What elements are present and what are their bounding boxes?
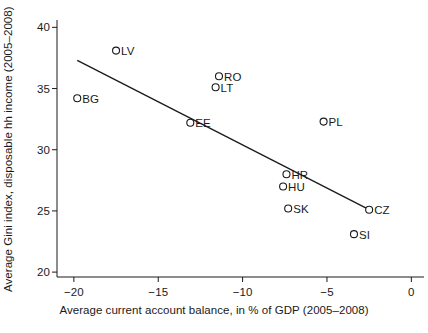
data-point-ee <box>187 119 194 126</box>
data-point-si <box>350 231 357 238</box>
x-tick-label: −20 <box>64 286 84 298</box>
data-point-lt <box>212 84 219 91</box>
point-label-ro: RO <box>224 71 241 83</box>
data-point-ro <box>215 73 222 80</box>
data-point-lv <box>113 47 120 54</box>
y-tick-label: 30 <box>20 144 50 156</box>
point-label-pl: PL <box>329 116 343 128</box>
point-label-hr: HR <box>291 169 308 181</box>
x-tick-label: −15 <box>148 286 168 298</box>
x-tick-marks <box>74 277 411 282</box>
point-label-ee: EE <box>195 117 211 129</box>
point-label-bg: BG <box>82 93 99 105</box>
point-label-si: SI <box>359 229 370 241</box>
data-point-sk <box>285 205 292 212</box>
x-axis-title: Average current account balance, in % of… <box>0 304 428 316</box>
x-tick-label: 0 <box>408 286 415 298</box>
data-point-hr <box>283 171 290 178</box>
point-label-cz: CZ <box>374 204 390 216</box>
data-point-cz <box>366 206 373 213</box>
y-tick-label: 40 <box>20 21 50 33</box>
point-label-hu: HU <box>288 181 305 193</box>
scatter-chart: 2025303540 −20−15−10−50 BGLVEELTROSKHUHR… <box>0 0 428 333</box>
data-point-pl <box>320 118 327 125</box>
y-tick-label: 35 <box>20 83 50 95</box>
data-point-bg <box>74 95 81 102</box>
y-axis-title: Average Gini index, disposable hh income… <box>2 12 18 292</box>
x-tick-label: −5 <box>320 286 333 298</box>
point-label-sk: SK <box>293 203 309 215</box>
y-tick-label: 20 <box>20 266 50 278</box>
data-point-hu <box>280 183 287 190</box>
x-tick-label: −10 <box>233 286 253 298</box>
point-label-lt: LT <box>221 82 234 94</box>
y-tick-marks <box>52 27 57 272</box>
plot-canvas <box>0 0 428 333</box>
point-label-lv: LV <box>121 45 134 57</box>
y-tick-label: 25 <box>20 205 50 217</box>
